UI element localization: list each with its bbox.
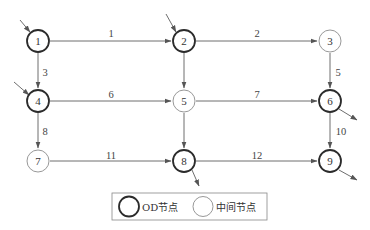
node-3: 3: [319, 30, 341, 52]
edge-label-1: 1: [108, 28, 113, 39]
edge-5: 5: [330, 53, 341, 88]
edge-7: 7: [196, 89, 317, 102]
node-label-5: 5: [181, 95, 187, 107]
edge-8: 8: [38, 113, 48, 148]
edge-3: 3: [38, 53, 48, 88]
edge-label-3: 3: [42, 67, 47, 78]
node-label-4: 4: [35, 95, 41, 107]
node-label-2: 2: [181, 35, 187, 47]
node-4: 4: [27, 90, 49, 112]
inflow-arrow-4: [14, 82, 29, 95]
edge-6: 6: [50, 89, 171, 102]
edge-label-7: 7: [254, 89, 259, 100]
outflow-arrow-9: [339, 170, 357, 180]
edge-1: 1: [50, 28, 171, 42]
node-2: 2: [173, 30, 195, 52]
legend: OD节点 中间节点: [112, 193, 267, 220]
node-label-8: 8: [181, 155, 187, 167]
legend-od-icon: [119, 197, 139, 217]
outflow-arrow-6: [339, 109, 357, 120]
node-label-6: 6: [327, 95, 333, 107]
node-9: 9: [319, 150, 341, 172]
inflow-arrow-2: [166, 14, 176, 32]
edge-label-8: 8: [42, 126, 47, 137]
edge-12: 12: [196, 150, 317, 162]
node-1: 1: [27, 30, 49, 52]
edge-2: 2: [196, 28, 317, 42]
edge-label-2: 2: [254, 28, 259, 39]
edge-label-6: 6: [108, 89, 113, 100]
node-6: 6: [319, 90, 341, 112]
node-label-9: 9: [327, 155, 333, 167]
legend-od-label: OD节点: [142, 202, 178, 213]
edge-label-12: 12: [252, 150, 263, 161]
node-5: 5: [173, 90, 195, 112]
edge-11: 11: [50, 150, 171, 162]
edge-10: 10: [330, 113, 346, 148]
node-7: 7: [27, 150, 49, 172]
node-8: 8: [173, 150, 195, 172]
network-diagram: 1 2 6 7 11 12 3 5 8 10: [0, 0, 370, 230]
legend-mid-label: 中间节点: [216, 201, 256, 213]
inflow-arrow-1: [20, 20, 30, 32]
legend-mid-icon: [193, 197, 213, 217]
node-label-1: 1: [35, 35, 41, 47]
edge-label-10: 10: [336, 126, 347, 137]
edge-label-11: 11: [106, 150, 116, 161]
node-label-7: 7: [35, 155, 41, 167]
outflow-arrow-8: [192, 170, 199, 186]
edge-label-5: 5: [335, 67, 340, 78]
node-label-3: 3: [327, 35, 333, 47]
